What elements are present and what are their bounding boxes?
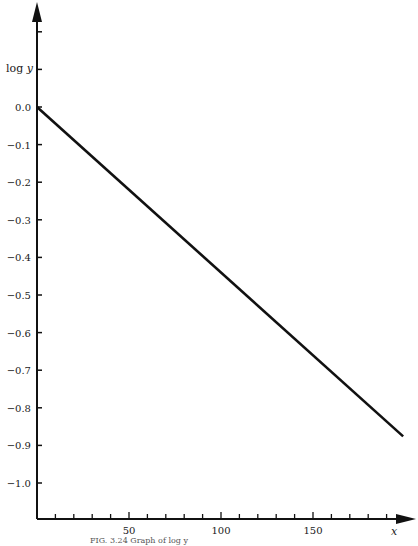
- line-chart: 0.0−0.1−0.2−0.3−0.4−0.5−0.6−0.7−0.8−0.9−…: [0, 0, 418, 546]
- y-tick-label: −1.0: [7, 478, 31, 489]
- data-series: [37, 107, 403, 436]
- y-tick-label: −0.9: [7, 440, 31, 451]
- y-axis-arrow-icon: [32, 2, 42, 22]
- x-tick-label: 100: [211, 525, 230, 536]
- x-axis-label: x: [391, 525, 398, 538]
- figure-caption: FIG. 3.24 Graph of log y: [90, 536, 188, 545]
- y-axis-label: log y: [6, 62, 34, 75]
- y-tick-label: −0.7: [7, 365, 31, 376]
- x-tick-label: 150: [303, 525, 322, 536]
- y-axis: 0.0−0.1−0.2−0.3−0.4−0.5−0.6−0.7−0.8−0.9−…: [7, 2, 42, 519]
- x-axis: 50100150: [37, 512, 416, 536]
- y-tick-label: −0.4: [7, 252, 31, 263]
- y-tick-label: −0.5: [7, 290, 31, 301]
- y-tick-label: 0.0: [15, 102, 31, 113]
- y-tick-label: −0.1: [7, 140, 31, 151]
- y-tick-label: −0.2: [7, 177, 31, 188]
- series-line: [37, 107, 403, 436]
- x-tick-label: 50: [123, 525, 136, 536]
- y-tick-label: −0.3: [7, 215, 31, 226]
- y-tick-label: −0.6: [7, 328, 31, 339]
- x-axis-arrow-icon: [396, 514, 416, 524]
- y-tick-label: −0.8: [7, 403, 31, 414]
